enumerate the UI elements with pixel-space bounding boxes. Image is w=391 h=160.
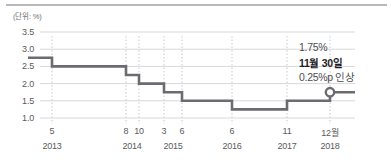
annotation-rate: 1.75% xyxy=(299,41,327,53)
y-axis-tick: 2.5 xyxy=(8,61,34,71)
x-axis-month-tick: 6 xyxy=(180,126,185,136)
x-axis-month-tick: 8 xyxy=(124,126,129,136)
y-axis-tick: 1.5 xyxy=(8,96,34,106)
y-axis-tick: 3.0 xyxy=(8,44,34,54)
y-axis-tick: 3.5 xyxy=(8,27,34,37)
x-axis-month-tick: 12월 xyxy=(321,126,338,139)
interest-rate-chart: (단위: %) 3.53.02.52.01.51.0 58103661112월 … xyxy=(0,0,391,160)
x-axis-year-tick: 2017 xyxy=(277,141,296,151)
x-axis-month-tick: 10 xyxy=(134,126,144,136)
x-axis-year-tick: 2018 xyxy=(320,141,339,151)
x-axis-year-tick: 2016 xyxy=(222,141,241,151)
annotation-delta: 0.25%p 인상 xyxy=(299,69,355,84)
x-axis-year-tick: 2013 xyxy=(42,141,61,151)
x-axis-year-tick: 2015 xyxy=(163,141,182,151)
x-axis-month-tick: 6 xyxy=(230,126,235,136)
annotation-date: 11월 30일 xyxy=(299,55,343,70)
latest-rate-marker xyxy=(326,88,334,96)
x-axis-month-tick: 11 xyxy=(283,126,292,136)
y-axis-tick: 1.0 xyxy=(8,113,34,123)
x-axis-month-tick: 3 xyxy=(162,126,167,136)
x-axis-year-tick: 2014 xyxy=(122,141,141,151)
y-axis-tick: 2.0 xyxy=(8,79,34,89)
x-axis-month-tick: 5 xyxy=(50,126,55,136)
